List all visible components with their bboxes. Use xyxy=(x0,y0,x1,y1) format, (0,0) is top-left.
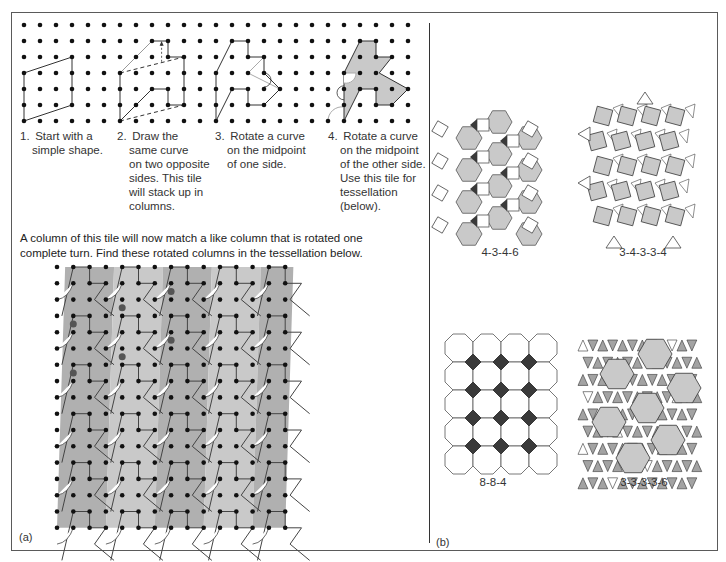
tessellation-label-3-3-3-3-6: 3-3-3-3-6 xyxy=(594,476,694,488)
triangle-tile xyxy=(662,461,672,472)
triangle-tile xyxy=(578,409,588,420)
triangle-tile xyxy=(583,357,593,368)
square-tile xyxy=(432,185,448,201)
triangle-tile xyxy=(578,176,590,190)
square-tile xyxy=(611,181,631,201)
square-tile xyxy=(659,131,679,151)
triangle-tile xyxy=(637,92,653,104)
triangle-tile xyxy=(578,127,590,141)
triangle-tile xyxy=(642,426,652,437)
triangle-tile xyxy=(685,204,695,218)
triangle-tile xyxy=(598,443,608,454)
square-tile xyxy=(659,181,679,201)
triangle-tile xyxy=(583,426,593,437)
triangle-tile xyxy=(632,426,642,437)
triangle-tile xyxy=(623,392,633,403)
square-tile xyxy=(477,151,489,163)
square-tile xyxy=(477,119,489,131)
square-tile xyxy=(593,156,613,176)
triangle-tile xyxy=(598,340,608,351)
square-tile xyxy=(635,181,655,201)
square-tile xyxy=(507,135,519,147)
triangle-tile xyxy=(677,340,687,351)
triangle-tile xyxy=(578,478,588,489)
triangle-tile xyxy=(692,426,702,437)
square-tile xyxy=(507,199,519,211)
triangle-tile xyxy=(578,340,588,351)
triangle-tile xyxy=(593,461,603,472)
triangle-tile xyxy=(588,374,598,385)
triangle-tile xyxy=(637,374,647,385)
triangle-tile xyxy=(578,443,588,454)
triangle-tile xyxy=(687,409,697,420)
square-tile xyxy=(635,131,655,151)
square-tile xyxy=(593,206,613,226)
hexagon xyxy=(486,111,512,134)
triangle-tile xyxy=(682,357,692,368)
triangle-tile xyxy=(583,461,593,472)
square-tile xyxy=(611,131,631,151)
triangle-tile xyxy=(623,426,633,437)
triangle-tile xyxy=(652,461,662,472)
triangle-tile xyxy=(618,340,628,351)
tessellation-label-3-4-3-3-4: 3-4-3-3-4 xyxy=(593,246,693,258)
triangle-tile xyxy=(613,392,623,403)
square-tile xyxy=(593,106,613,126)
square-tile xyxy=(477,183,489,195)
triangle-tile xyxy=(608,443,618,454)
triangle-tile xyxy=(593,392,603,403)
triangle-tile xyxy=(578,374,588,385)
triangle-tile xyxy=(628,340,638,351)
triangle-tile xyxy=(608,340,618,351)
triangle-tile xyxy=(672,357,682,368)
triangle-tile xyxy=(588,340,598,351)
triangle-tile xyxy=(687,340,697,351)
panel-b-label: (b) xyxy=(436,536,449,548)
square-tile xyxy=(432,153,448,169)
triangle-tile xyxy=(692,357,702,368)
triangle-tile xyxy=(593,357,603,368)
triangle-tile xyxy=(667,409,677,420)
triangle-tile xyxy=(682,461,692,472)
triangle-tile xyxy=(583,392,593,403)
triangle-tile xyxy=(588,443,598,454)
triangle-tile xyxy=(672,461,682,472)
triangle-tile xyxy=(687,443,697,454)
square-tile xyxy=(477,215,489,227)
triangle-tile xyxy=(677,409,687,420)
triangle-tile xyxy=(603,461,613,472)
triangle-tile xyxy=(657,374,667,385)
triangle-tile xyxy=(679,179,689,193)
triangle-tile xyxy=(692,461,702,472)
tessellation-label-4-3-4-6: 4-3-4-6 xyxy=(450,246,550,258)
triangle-tile xyxy=(682,426,692,437)
square-tile xyxy=(432,217,448,233)
triangle-tile xyxy=(603,392,613,403)
triangle-tile xyxy=(685,104,695,118)
tessellation-label-8-8-4: 8-8-4 xyxy=(443,476,543,488)
triangle-tile xyxy=(685,154,695,168)
triangle-tile xyxy=(679,129,689,143)
triangle-tile xyxy=(647,374,657,385)
square-tile xyxy=(507,167,519,179)
square-tile xyxy=(432,121,448,137)
